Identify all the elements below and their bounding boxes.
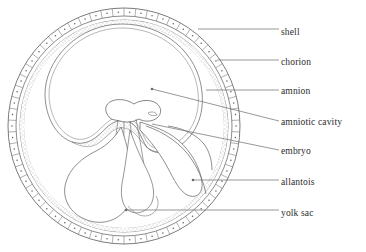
shell-cell-dot xyxy=(208,51,210,53)
shell-cell-dot xyxy=(31,190,33,192)
shell-cell-dot xyxy=(192,35,194,37)
shell-cell-dot xyxy=(25,70,27,72)
shell-cell-dot xyxy=(233,102,235,104)
shell-cell-dot xyxy=(14,102,16,104)
shell-cell-dot xyxy=(38,200,40,202)
shell-cell-dot xyxy=(226,170,228,172)
shell-cell-dot xyxy=(235,114,237,116)
shell-cell-dot xyxy=(74,228,76,230)
shell-cell-dot xyxy=(20,170,22,172)
shell-cell-dot xyxy=(38,51,40,53)
shell-cell-dot xyxy=(233,148,235,150)
shell-cell-dot xyxy=(162,18,164,20)
label-yolk-sac: yolk sac xyxy=(281,209,314,219)
label-amniotic-cavity: amniotic cavity xyxy=(281,118,342,128)
label-allantois: allantois xyxy=(281,178,315,188)
shell-cell-dot xyxy=(16,159,18,161)
shell-cell-dot xyxy=(140,13,142,15)
shell-cell-dot xyxy=(226,80,228,82)
shell-cell-dot xyxy=(64,29,66,31)
shell-cell-dot xyxy=(215,190,217,192)
shell-cell-dot xyxy=(95,15,97,16)
shell-cell-dot xyxy=(162,232,164,234)
shell-cell-dot xyxy=(16,91,18,93)
shell-cell-dot xyxy=(12,114,14,116)
shell-cell-dot xyxy=(106,13,108,15)
shell-cell-dot xyxy=(20,80,22,82)
shell-cell-dot xyxy=(230,91,232,93)
shell-cell-dot xyxy=(215,60,217,62)
shell-cell-dot xyxy=(221,181,223,183)
shell-cell-dot xyxy=(55,35,57,37)
shell-cell-dot xyxy=(151,236,153,238)
shell-cell-dot xyxy=(11,125,13,127)
shell-cell-dot xyxy=(173,23,175,25)
label-amnion: amnion xyxy=(281,87,310,97)
shell-cell-dot xyxy=(235,137,237,139)
shell-cell-dot xyxy=(182,29,184,31)
leader-dot-yolk-sac xyxy=(125,209,128,212)
shell-cell-dot xyxy=(118,239,120,241)
shell-cell-dot xyxy=(129,239,131,241)
shell-cell-dot xyxy=(129,11,131,13)
shell-cell-dot xyxy=(74,23,76,25)
shell-cell-dot xyxy=(46,43,48,45)
label-embryo: embryo xyxy=(281,147,311,157)
leader-dot-amniotic-cavity xyxy=(151,88,154,91)
shell-cell-dot xyxy=(64,222,66,224)
shell-cell-dot xyxy=(84,232,86,234)
shell-cell-dot xyxy=(118,11,120,13)
shell-cell-dot xyxy=(31,60,33,62)
diagram-page: shellchorionamnionamniotic cavityembryoa… xyxy=(0,0,366,252)
shell-cell-dot xyxy=(84,18,86,20)
shell-cell-dot xyxy=(182,222,184,224)
shell-cell-dot xyxy=(173,228,175,230)
shell-cell-dot xyxy=(208,200,210,202)
shell-cell-dot xyxy=(230,159,232,161)
shell-cell-dot xyxy=(14,148,16,150)
shell-cell-dot xyxy=(151,15,153,16)
shell-cell-dot xyxy=(106,238,108,240)
label-shell: shell xyxy=(281,28,300,38)
shell-cell-dot xyxy=(140,238,142,240)
shell-cell-dot xyxy=(95,236,97,238)
label-chorion: chorion xyxy=(281,58,311,68)
shell-cell-dot xyxy=(55,215,57,217)
shell-cell-dot xyxy=(25,181,27,183)
leader-dot-allantois xyxy=(192,179,195,182)
shell-cell-dot xyxy=(192,215,194,217)
shell-cell-dot xyxy=(12,137,14,139)
shell-cell-dot xyxy=(200,43,202,45)
shell-cell-dot xyxy=(235,125,237,127)
shell-cell-dot xyxy=(221,70,223,72)
shell-cell-dot xyxy=(46,208,48,210)
shell-cell-dot xyxy=(200,208,202,210)
